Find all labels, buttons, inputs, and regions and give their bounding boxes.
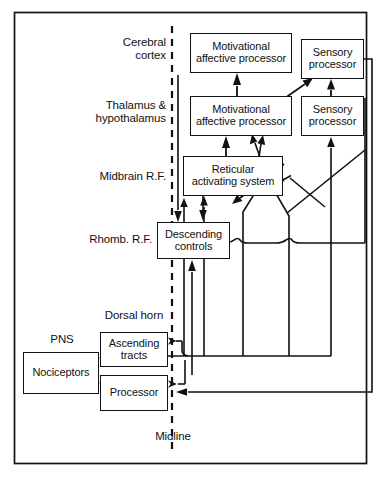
connection-ascending-to-thalamus-sensory: [327, 137, 335, 356]
node-cortex-sensory-processor[interactable]: Sensory processor: [301, 39, 364, 79]
node-label: Ascending tracts: [108, 338, 160, 362]
node-label: Sensory processor: [308, 47, 357, 71]
node-nociceptors[interactable]: Nociceptors: [23, 352, 99, 394]
node-cortex-motivational-affective-processor[interactable]: Motivational affective processor: [190, 33, 292, 73]
region-label-rhomb-rf: Rhomb. R.F.: [52, 233, 152, 246]
node-ascending-tracts[interactable]: Ascending tracts: [100, 332, 168, 367]
node-thalamus-sensory-processor[interactable]: Sensory processor: [301, 96, 364, 136]
connection-descending-controls-to-processor: [188, 260, 196, 375]
connection-descending-to-processor-lateral: [168, 360, 185, 388]
connection-cortex-map-down-to-descending-controls: [174, 75, 182, 222]
node-thalamus-motivational-affective-processor[interactable]: Motivational affective processor: [190, 96, 292, 136]
label-pns: PNS: [34, 333, 90, 346]
region-label-midbrain-rf: Midbrain R.F.: [56, 170, 166, 183]
node-label: Reticular activating system: [191, 164, 276, 188]
connection-thalamus-map-to-cortex-map: [233, 73, 241, 96]
connection-ras-to-thalamus-map: [222, 136, 230, 156]
node-descending-controls[interactable]: Descending controls: [157, 222, 230, 259]
region-label-thalamus-hypothalamus: Thalamus & hypothalamus: [44, 99, 166, 124]
label-dorsal-horn: Dorsal horn: [86, 309, 182, 322]
connection-thalamus-sensory-to-cortex-sensory: [327, 79, 335, 96]
node-label: Motivational affective processor: [195, 41, 287, 65]
node-label: Sensory processor: [308, 104, 357, 128]
pain-pathway-diagram: Motivational affective processor Sensory…: [0, 0, 382, 478]
node-label: Nociceptors: [32, 367, 91, 379]
node-label: Motivational affective processor: [195, 104, 287, 128]
node-label: Processor: [109, 387, 160, 399]
connection-ascending-to-reticular-activating-system: [200, 196, 208, 356]
label-midline: Midline: [143, 430, 203, 443]
node-label: Descending controls: [164, 229, 223, 253]
node-processor[interactable]: Processor: [100, 375, 168, 411]
node-reticular-activating-system[interactable]: Reticular activating system: [183, 156, 283, 196]
connection-ras-to-descending-controls: [199, 196, 207, 221]
region-label-cerebral-cortex: Cerebral cortex: [64, 36, 166, 61]
